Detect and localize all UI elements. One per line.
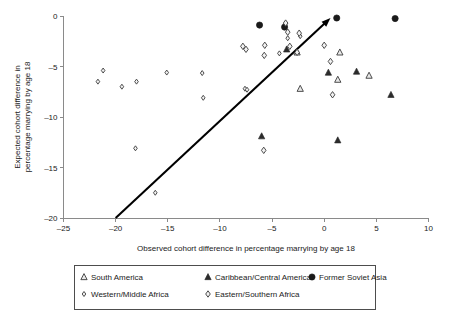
series-western-middle-africa <box>96 21 302 195</box>
legend-border <box>74 265 375 309</box>
x-tick-label: –10 <box>213 224 227 233</box>
data-point <box>101 68 105 73</box>
data-point <box>388 91 394 97</box>
x-tick-label: –15 <box>161 224 175 233</box>
x-tick-label: 10 <box>424 224 433 233</box>
data-point <box>322 42 327 48</box>
x-tick-label: –25 <box>57 224 71 233</box>
y-tick-label: –20 <box>44 214 58 223</box>
data-point <box>153 190 157 195</box>
data-point <box>337 49 343 55</box>
legend-entry-label: South America <box>91 273 144 282</box>
data-point <box>297 85 303 91</box>
data-point <box>134 146 138 151</box>
data-point <box>286 36 290 41</box>
series-caribbean-central-america <box>259 46 395 143</box>
axes-group: –25–20–15–10–505100–5–10–15–20 <box>44 12 433 233</box>
y-tick-label: –15 <box>44 164 58 173</box>
legend-group: South AmericaCaribbean/Central AmericaFo… <box>74 265 387 309</box>
data-point <box>335 76 341 82</box>
legend-entry-label: Eastern/Southern Africa <box>215 290 300 299</box>
data-point <box>335 137 341 143</box>
y-tick-label: 0 <box>53 12 58 21</box>
legend-entry[interactable]: Western/Middle Africa <box>82 290 169 299</box>
data-point <box>120 84 124 89</box>
legend-marker-icon <box>81 274 87 280</box>
scatter-plot-figure: –25–20–15–10–505100–5–10–15–20 Observed … <box>0 0 449 319</box>
data-point <box>353 68 359 74</box>
data-point <box>201 95 205 100</box>
data-point <box>366 72 372 78</box>
legend-marker-icon <box>206 291 211 297</box>
legend-entry-label: Western/Middle Africa <box>91 290 169 299</box>
data-points-group <box>96 15 398 195</box>
legend-entry-label: Caribbean/Central America <box>215 273 312 282</box>
x-tick-label: 0 <box>322 224 327 233</box>
legend-entry[interactable]: Caribbean/Central America <box>205 273 312 282</box>
x-tick-label: –20 <box>109 224 123 233</box>
y-axis-title: Expected cohort difference inpercentage … <box>13 61 32 172</box>
data-point <box>262 52 267 58</box>
data-point <box>262 42 267 48</box>
legend-entry[interactable]: Eastern/Southern Africa <box>206 290 300 299</box>
x-tick-label: 5 <box>374 224 379 233</box>
legend-marker-icon <box>82 292 86 297</box>
trend-line <box>116 23 326 218</box>
data-point <box>200 71 204 76</box>
data-point <box>325 69 331 75</box>
data-point <box>261 147 266 153</box>
y-axis-title-line: percentage marrying by age 18 <box>23 61 32 172</box>
series-south-america <box>294 49 372 91</box>
data-point <box>328 58 333 64</box>
y-tick-label: –10 <box>44 113 58 122</box>
x-tick-label: –5 <box>268 224 277 233</box>
data-point <box>135 79 139 84</box>
trend-line-group <box>116 18 331 218</box>
data-point <box>96 79 100 84</box>
data-point <box>392 15 398 21</box>
legend-marker-icon <box>205 274 211 280</box>
chart-canvas: –25–20–15–10–505100–5–10–15–20 Observed … <box>0 0 449 319</box>
data-point <box>259 133 265 139</box>
y-tick-label: –5 <box>49 63 58 72</box>
legend-entry-label: Former Soviet Asia <box>319 273 387 282</box>
data-point <box>278 51 282 56</box>
data-point <box>334 15 340 21</box>
y-axis-title-line: Expected cohort difference in <box>13 65 22 168</box>
data-point <box>256 22 262 28</box>
data-point <box>165 70 169 75</box>
data-point <box>330 92 335 98</box>
legend-marker-icon <box>309 274 315 280</box>
legend-entry[interactable]: South America <box>81 273 144 282</box>
x-axis-title: Observed cohort difference in percentage… <box>137 244 355 253</box>
legend-entry[interactable]: Former Soviet Asia <box>309 273 387 282</box>
